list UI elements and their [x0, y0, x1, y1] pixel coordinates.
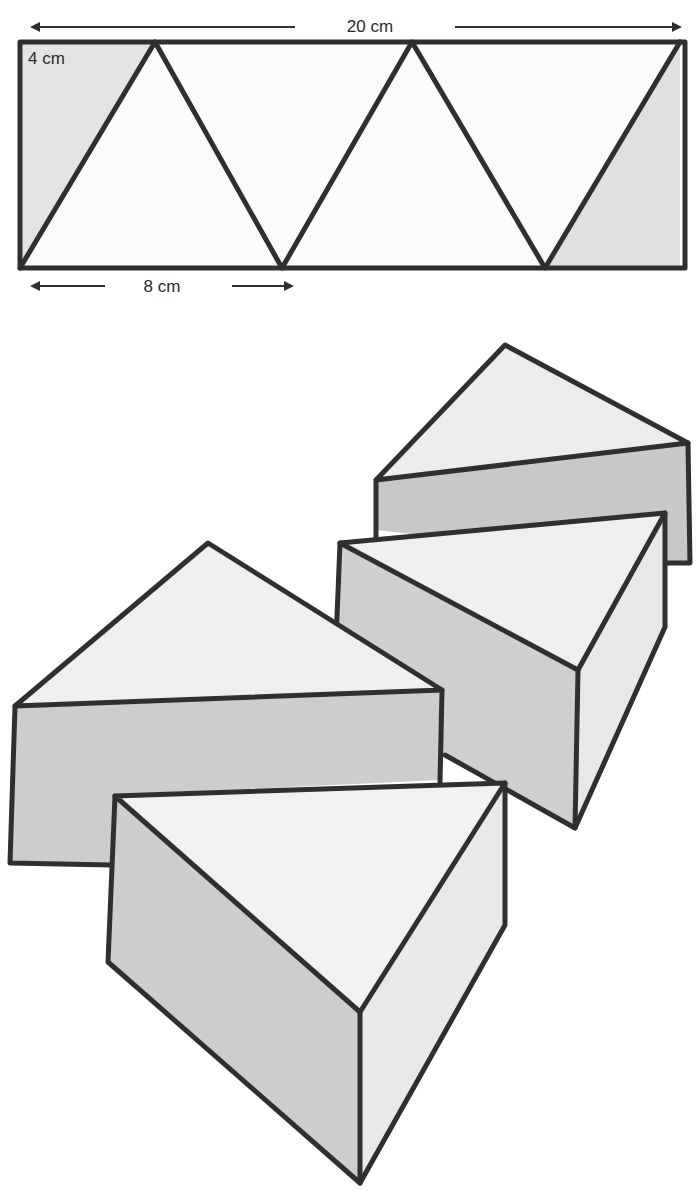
width-label: 20 cm	[347, 17, 393, 36]
prism-piece-front	[108, 783, 505, 1183]
base-dimension: 8 cm	[32, 277, 292, 296]
figure-canvas: 20 cm 4 cm 8 cm	[0, 0, 698, 1193]
net-diagram: 20 cm 4 cm 8 cm	[20, 17, 685, 296]
height-label: 4 cm	[28, 49, 65, 68]
width-dimension: 20 cm	[32, 17, 680, 36]
base-label: 8 cm	[144, 277, 181, 296]
